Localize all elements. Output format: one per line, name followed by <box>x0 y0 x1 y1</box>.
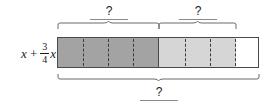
bar-divider-dashed <box>235 39 236 66</box>
expression-term2: x <box>50 46 56 62</box>
bar-divider-dashed <box>83 39 84 66</box>
bar-segment-light <box>159 38 236 67</box>
question-mark: ? <box>156 86 163 98</box>
bar-divider-dashed <box>133 39 134 66</box>
question-mark: ? <box>195 5 202 17</box>
expression-label: x + 3 4 x <box>8 40 56 68</box>
question-label-top-right[interactable]: ? <box>179 5 217 20</box>
answer-blank-line <box>179 19 217 20</box>
bar-divider-dashed <box>108 39 109 66</box>
question-mark: ? <box>106 5 113 17</box>
question-label-bottom[interactable]: ? <box>140 86 178 101</box>
question-label-top-left[interactable]: ? <box>90 5 128 20</box>
bar-model <box>57 37 259 68</box>
answer-blank-line <box>90 19 128 20</box>
fraction-numerator: 3 <box>42 42 47 53</box>
brace-top-left <box>57 21 160 30</box>
bar-model-figure: x + 3 4 x <box>0 0 276 108</box>
bar-divider-dashed <box>210 39 211 66</box>
answer-blank-line <box>140 100 178 101</box>
expression-term1: x <box>21 46 27 62</box>
brace-top-right <box>158 21 237 30</box>
expression-operator: + <box>30 46 37 62</box>
fraction-denominator: 4 <box>42 54 47 65</box>
brace-bottom-total <box>57 74 260 83</box>
bar-segment-empty <box>236 38 258 67</box>
fraction-three-fourths: 3 4 <box>40 42 49 65</box>
bar-divider-dashed <box>185 39 186 66</box>
